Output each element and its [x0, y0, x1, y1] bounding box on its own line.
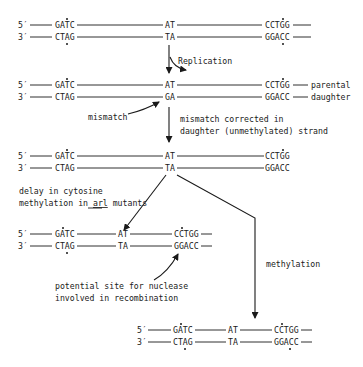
- methyl-dot: [62, 227, 64, 229]
- mismatch-pointer-arrow: [128, 102, 159, 114]
- methyl-dot: [281, 323, 283, 325]
- dna-mismatch-repair-diagram: 5′ GATC AT CCTGG 3′ CTAG TA GGACC Replic…: [0, 0, 363, 367]
- mid-base-bottom: TA: [165, 163, 175, 173]
- ggacc-site-bottom: GGACC: [274, 337, 299, 347]
- three-prime-label: 3′: [18, 163, 28, 173]
- stage3-duplex: 5′ GATC AT CCTGG 3′ CTAG TA GGACC: [18, 149, 290, 173]
- methyl-dot: [282, 78, 284, 80]
- methyl-dot: [66, 43, 68, 45]
- methyl-dot: [66, 78, 68, 80]
- three-prime-label: 3′: [18, 241, 28, 251]
- ggacc-site-bottom: GGACC: [265, 163, 290, 173]
- cctgg-site-top: CCTGG: [265, 20, 290, 30]
- mid-base-top: AT: [118, 229, 128, 239]
- ggacc-site-bottom: GGACC: [265, 32, 290, 42]
- methyl-dot: [181, 227, 183, 229]
- ctag-site-bottom: CTAG: [173, 337, 193, 347]
- three-prime-label: 3′: [18, 92, 28, 102]
- methyl-dot: [180, 323, 182, 325]
- arl-gene-name: arl: [93, 198, 108, 208]
- methyl-dot: [66, 149, 68, 151]
- nuclease-label-line1: potential site for nuclease: [55, 281, 188, 291]
- stage4b-duplex: 5′ GATC AT CCTGG 3′ CTAG TA GGACC: [137, 323, 312, 350]
- gatc-site-top: GATC: [173, 325, 193, 335]
- methylation-label: methylation: [266, 259, 320, 269]
- nuclease-label-line2: involved in recombination: [55, 293, 178, 303]
- ctag-site-bottom: CTAG: [55, 241, 75, 251]
- gatc-site-top: GATC: [55, 151, 75, 161]
- daughter-strand-label: daughter: [311, 92, 351, 102]
- gatc-site-top: GATC: [55, 80, 75, 90]
- gatc-site-top: GATC: [55, 229, 75, 239]
- correction-label-line2: daughter (unmethylated) strand: [180, 126, 328, 136]
- delay-label-line1: delay in cytosine: [19, 186, 103, 196]
- cctgg-site-top: CCTGG: [265, 80, 290, 90]
- five-prime-label: 5′: [18, 151, 28, 161]
- correction-label-line1: mismatch corrected in: [180, 114, 284, 124]
- ggacc-site-bottom: GGACC: [174, 241, 199, 251]
- cctgg-site-top: CCTGG: [274, 325, 299, 335]
- methyl-dot: [282, 18, 284, 20]
- five-prime-label: 5′: [18, 229, 28, 239]
- mismatch-label: mismatch: [88, 112, 128, 122]
- three-prime-label: 3′: [137, 337, 147, 347]
- methyl-dot: [282, 149, 284, 151]
- mid-base-bottom: TA: [228, 337, 238, 347]
- gatc-site-top: GATC: [55, 20, 75, 30]
- delay-label-line2: methylation in arl mutants: [19, 198, 147, 208]
- ggacc-site-bottom: GGACC: [265, 92, 290, 102]
- mid-base-top: AT: [165, 151, 175, 161]
- methyl-dot: [66, 252, 68, 254]
- stage1-duplex: 5′ GATC AT CCTGG 3′ CTAG TA GGACC: [18, 18, 311, 45]
- mid-base-top: AT: [165, 80, 175, 90]
- five-prime-label: 5′: [18, 80, 28, 90]
- methyl-dot: [289, 348, 291, 350]
- mid-base-top: AT: [228, 325, 238, 335]
- three-prime-label: 3′: [18, 32, 28, 42]
- mismatch-base-bottom: GA: [165, 92, 175, 102]
- methyl-dot: [66, 18, 68, 20]
- cctgg-site-top: CCTGG: [265, 151, 290, 161]
- methyl-dot: [184, 348, 186, 350]
- stage4a-duplex: 5′ GATC AT CCTGG 3′ CTAG TA GGACC: [18, 227, 212, 254]
- nuclease-pointer-arrow: [154, 254, 178, 280]
- methyl-dot: [282, 43, 284, 45]
- five-prime-label: 5′: [18, 20, 28, 30]
- mid-base-top: AT: [165, 20, 175, 30]
- replication-label: Replication: [178, 56, 232, 66]
- ctag-site-bottom: CTAG: [55, 163, 75, 173]
- mid-base-bottom: TA: [165, 32, 175, 42]
- ctag-site-bottom: CTAG: [55, 32, 75, 42]
- parental-strand-label: parental: [311, 80, 351, 90]
- five-prime-label: 5′: [137, 325, 147, 335]
- ctag-site-bottom: CTAG: [55, 92, 75, 102]
- stage2-duplex: 5′ GATC AT CCTGG parental 3′ CTAG GA GGA…: [18, 78, 351, 102]
- cctgg-site-top: CCTGG: [174, 229, 199, 239]
- mid-base-bottom: TA: [118, 241, 128, 251]
